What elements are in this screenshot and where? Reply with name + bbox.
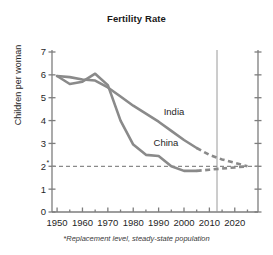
x-tick-label: 1970	[97, 217, 118, 228]
y-tick-label: 2	[41, 161, 46, 172]
series-line-projected-india	[197, 148, 248, 166]
y-tick-label: 4	[41, 115, 46, 126]
right-axis	[255, 50, 262, 212]
series-line-projected-china	[197, 166, 248, 171]
series-label-india: India	[164, 106, 185, 117]
series-labels: IndiaChina	[154, 106, 185, 148]
footnote: *Replacement level, steady-state populat…	[0, 234, 273, 243]
chart-page: Fertility Rate Children per woman 012*34…	[0, 0, 273, 255]
y-tick-label: 1	[41, 184, 46, 195]
x-tick-label: 2000	[173, 217, 194, 228]
y-tick-label: 3	[41, 138, 46, 149]
x-tick-label: 2020	[224, 217, 245, 228]
series-line-observed-china	[57, 74, 197, 171]
replacement-level-asterisk: *	[47, 159, 50, 166]
y-tick-label: 0	[41, 206, 46, 217]
y-tick-label: 5	[41, 92, 46, 103]
y-tick-label: 6	[41, 69, 46, 80]
x-tick-label: 1980	[123, 217, 144, 228]
series-lines	[57, 74, 247, 171]
x-tick-label: 1990	[148, 217, 169, 228]
x-tick-label: 1950	[47, 217, 68, 228]
x-axis: 19501960197019801990200020102020	[47, 208, 258, 229]
series-label-china: China	[154, 137, 180, 148]
y-axis: 012*34567	[41, 46, 56, 217]
y-tick-label: 7	[41, 46, 46, 57]
x-tick-label: 2010	[199, 217, 220, 228]
fertility-rate-plot: 012*34567 195019601970198019902000201020…	[0, 0, 273, 255]
x-tick-label: 1960	[72, 217, 93, 228]
